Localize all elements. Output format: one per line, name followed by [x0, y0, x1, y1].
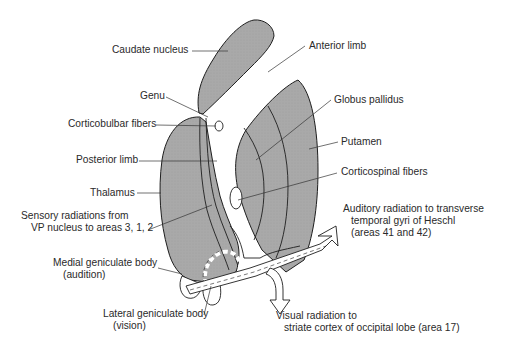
label-visual-radiation: Visual radiation to striate cortex of oc…	[276, 310, 460, 334]
label-visual-radiation-line2: striate cortex of occipital lobe (area 1…	[276, 322, 460, 334]
visual-radiation-arrow	[266, 268, 290, 314]
label-medial-geniculate-body: Medial geniculate body (audition)	[53, 257, 157, 281]
label-lateral-geniculate-body: Lateral geniculate body (vision)	[103, 308, 208, 332]
anatomy-illustration	[0, 0, 505, 352]
label-medial-geniculate-line2: (audition)	[53, 269, 157, 281]
label-putamen: Putamen	[341, 136, 382, 148]
putamen-shape	[236, 80, 318, 272]
label-auditory-radiation: Auditory radiation to transverse tempora…	[343, 203, 484, 239]
label-anterior-limb: Anterior limb	[309, 40, 366, 52]
label-sensory-radiations-line1: Sensory radiations from	[21, 210, 129, 221]
internal-capsule-diagram: Caudate nucleus Anterior limb Genu Corti…	[0, 0, 505, 352]
label-lateral-geniculate-line1: Lateral geniculate body	[103, 308, 208, 319]
label-lateral-geniculate-line2: (vision)	[103, 320, 208, 332]
caudate-nucleus-shape	[198, 20, 274, 114]
label-globus-pallidus: Globus pallidus	[334, 94, 404, 106]
label-sensory-radiations-line2: VP nucleus to areas 3, 1, 2	[21, 222, 153, 234]
label-caudate-nucleus: Caudate nucleus	[112, 44, 188, 56]
label-corticobulbar-fibers: Corticobulbar fibers	[68, 118, 156, 130]
label-auditory-radiation-line1: Auditory radiation to transverse	[343, 203, 484, 214]
corticospinal-fibers-oval	[230, 187, 242, 209]
label-auditory-radiation-line2: temporal gyri of Heschl	[343, 215, 484, 227]
label-thalamus: Thalamus	[90, 187, 135, 199]
label-visual-radiation-line1: Visual radiation to	[276, 310, 357, 321]
label-medial-geniculate-line1: Medial geniculate body	[53, 257, 157, 268]
corticobulbar-fibers-oval	[215, 121, 223, 131]
label-auditory-radiation-line3: (areas 41 and 42)	[343, 227, 484, 239]
label-genu: Genu	[140, 90, 165, 102]
label-corticospinal-fibers: Corticospinal fibers	[341, 166, 428, 178]
label-posterior-limb: Posterior limb	[76, 154, 138, 166]
label-sensory-radiations: Sensory radiations from VP nucleus to ar…	[21, 210, 153, 234]
